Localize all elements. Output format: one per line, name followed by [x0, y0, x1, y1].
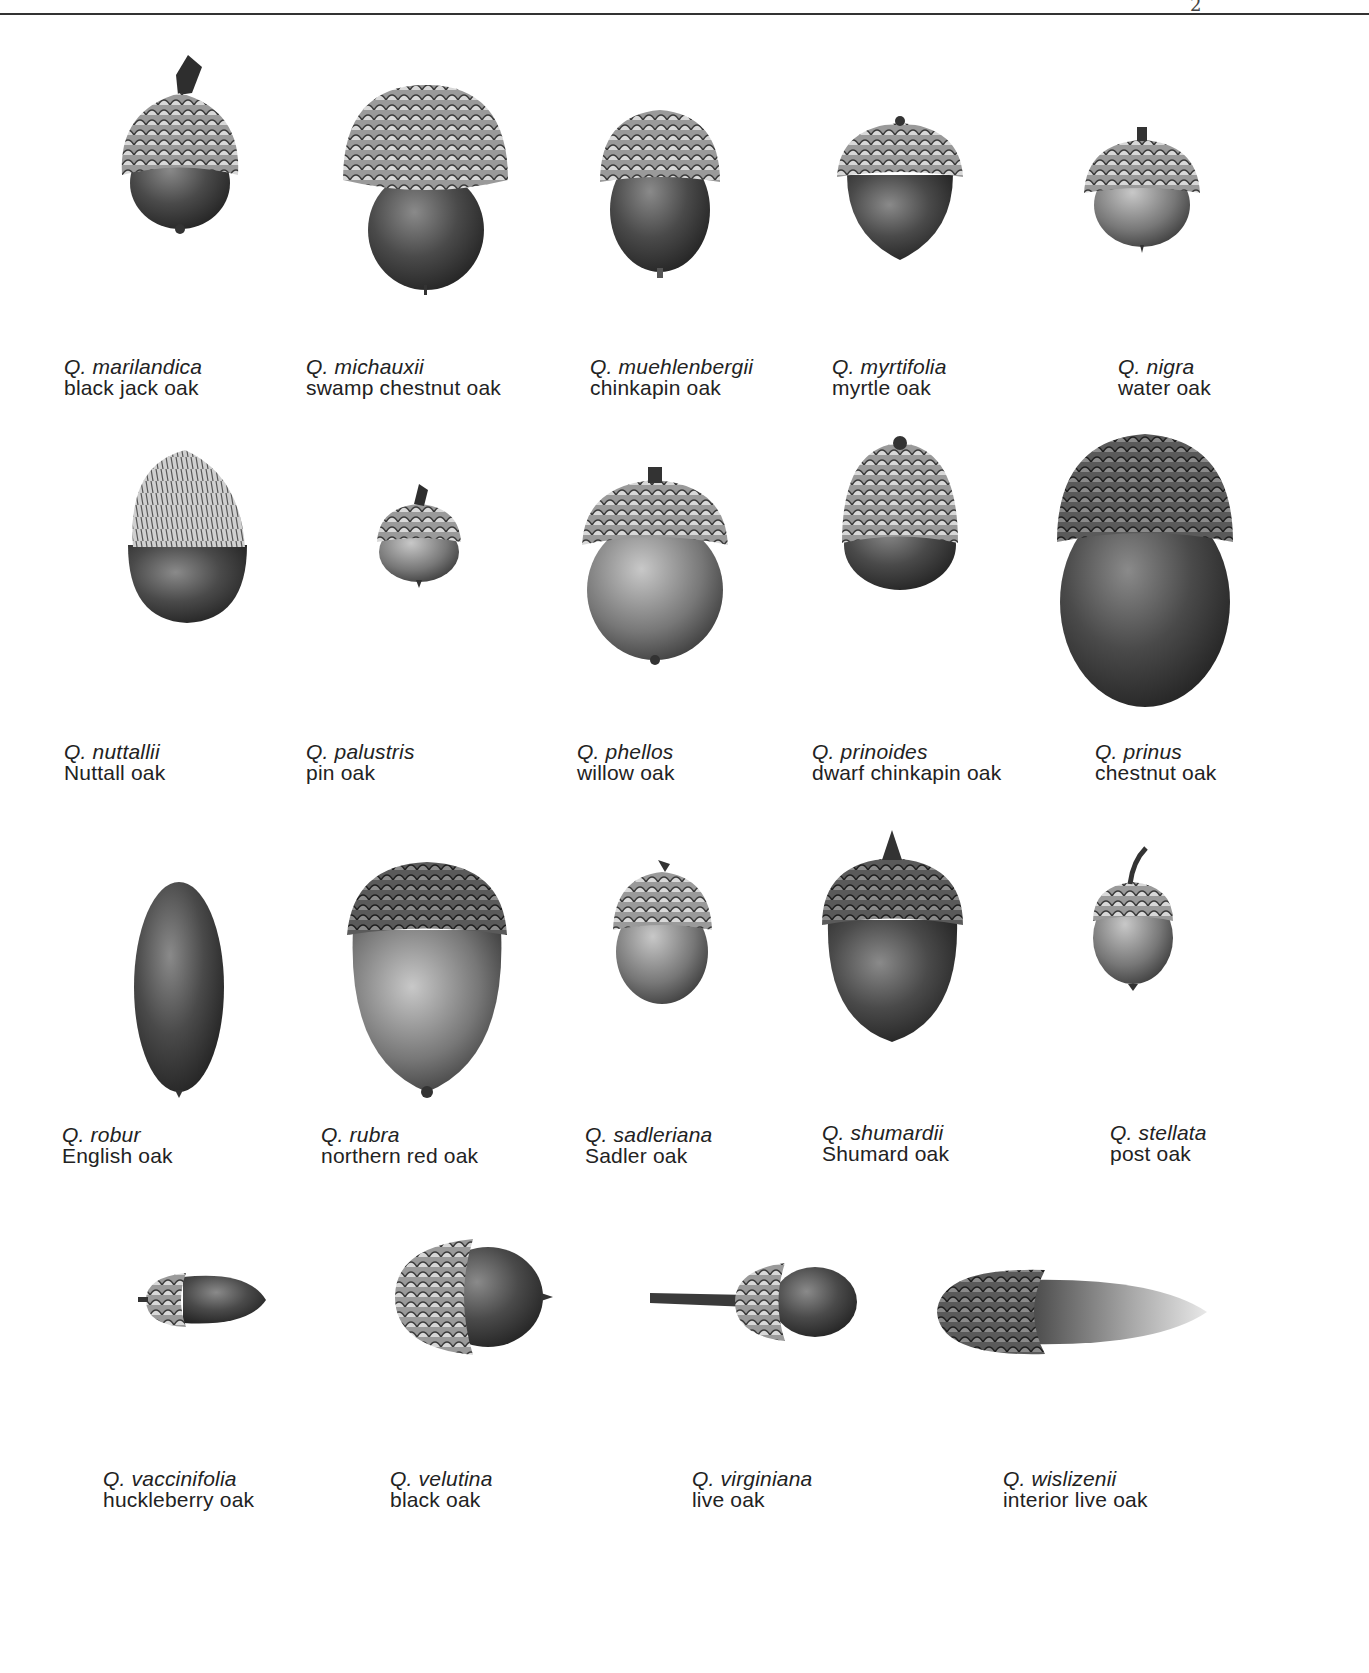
common-name: huckleberry oak: [103, 1489, 254, 1510]
common-name: water oak: [1118, 377, 1211, 398]
acorn-illustration: [138, 1265, 268, 1335]
common-name: myrtle oak: [832, 377, 947, 398]
specimen-label: Q. rubra northern red oak: [321, 1124, 478, 1166]
scientific-name: Q. wislizenii: [1003, 1468, 1148, 1489]
specimen-label: Q. myrtifolia myrtle oak: [832, 356, 947, 398]
scientific-name: Q. rubra: [321, 1124, 478, 1145]
scientific-name: Q. phellos: [577, 741, 675, 762]
specimen-label: Q. stellata post oak: [1110, 1122, 1207, 1164]
common-name: black oak: [390, 1489, 493, 1510]
acorn-illustration: [125, 445, 250, 630]
scientific-name: Q. nuttallii: [64, 741, 165, 762]
acorn-illustration: [650, 1255, 860, 1345]
common-name: Shumard oak: [822, 1143, 949, 1164]
page-mark: 2: [1190, 0, 1201, 15]
scientific-name: Q. sadleriana: [585, 1124, 713, 1145]
scientific-name: Q. palustris: [306, 741, 415, 762]
specimen-label: Q. robur English oak: [62, 1124, 173, 1166]
scientific-name: Q. velutina: [390, 1468, 493, 1489]
specimen-label: Q. muehlenbergii chinkapin oak: [590, 356, 753, 398]
common-name: Sadler oak: [585, 1145, 713, 1166]
acorn-illustration: [338, 80, 513, 295]
scientific-name: Q. vaccinifolia: [103, 1468, 254, 1489]
acorn-illustration: [580, 465, 730, 665]
specimen-label: Q. sadleriana Sadler oak: [585, 1124, 713, 1166]
common-name: pin oak: [306, 762, 415, 783]
scientific-name: Q. nigra: [1118, 356, 1211, 377]
common-name: English oak: [62, 1145, 173, 1166]
common-name: chinkapin oak: [590, 377, 753, 398]
specimen-label: Q. prinoides dwarf chinkapin oak: [812, 741, 1001, 783]
acorn-illustration: [610, 852, 715, 1012]
scientific-name: Q. shumardii: [822, 1122, 949, 1143]
specimen-label: Q. nigra water oak: [1118, 356, 1211, 398]
specimen-label: Q. wislizenii interior live oak: [1003, 1468, 1148, 1510]
acorn-illustration: [110, 55, 250, 235]
acorn-illustration: [835, 115, 965, 265]
scientific-name: Q. robur: [62, 1124, 173, 1145]
acorn-illustration: [1088, 846, 1178, 991]
common-name: swamp chestnut oak: [306, 377, 501, 398]
specimen-label: Q. michauxii swamp chestnut oak: [306, 356, 501, 398]
acorn-illustration: [1082, 125, 1202, 255]
acorn-illustration: [393, 1237, 553, 1357]
acorn-illustration: [374, 482, 464, 590]
specimen-label: Q. vaccinifolia huckleberry oak: [103, 1468, 254, 1510]
common-name: dwarf chinkapin oak: [812, 762, 1001, 783]
specimen-label: Q. marilandica black jack oak: [64, 356, 202, 398]
scientific-name: Q. virginiana: [692, 1468, 813, 1489]
specimen-label: Q. virginiana live oak: [692, 1468, 813, 1510]
specimen-label: Q. palustris pin oak: [306, 741, 415, 783]
acorn-illustration: [1055, 432, 1235, 712]
common-name: chestnut oak: [1095, 762, 1216, 783]
acorn-illustration: [935, 1262, 1210, 1362]
specimen-label: Q. prinus chestnut oak: [1095, 741, 1216, 783]
scientific-name: Q. prinoides: [812, 741, 1001, 762]
acorn-illustration: [840, 435, 960, 595]
specimen-label: Q. phellos willow oak: [577, 741, 675, 783]
scientific-name: Q. michauxii: [306, 356, 501, 377]
common-name: post oak: [1110, 1143, 1207, 1164]
scientific-name: Q. stellata: [1110, 1122, 1207, 1143]
common-name: willow oak: [577, 762, 675, 783]
header-rule: [0, 13, 1369, 15]
specimen-label: Q. shumardii Shumard oak: [822, 1122, 949, 1164]
scientific-name: Q. myrtifolia: [832, 356, 947, 377]
scientific-name: Q. prinus: [1095, 741, 1216, 762]
specimen-label: Q. nuttallii Nuttall oak: [64, 741, 165, 783]
specimen-label: Q. velutina black oak: [390, 1468, 493, 1510]
scientific-name: Q. marilandica: [64, 356, 202, 377]
common-name: black jack oak: [64, 377, 202, 398]
acorn-illustration: [820, 830, 965, 1045]
scientific-name: Q. muehlenbergii: [590, 356, 753, 377]
acorn-illustration: [345, 860, 510, 1100]
acorn-illustration: [595, 100, 725, 280]
common-name: northern red oak: [321, 1145, 478, 1166]
common-name: Nuttall oak: [64, 762, 165, 783]
common-name: live oak: [692, 1489, 813, 1510]
common-name: interior live oak: [1003, 1489, 1148, 1510]
acorn-illustration: [132, 880, 227, 1100]
